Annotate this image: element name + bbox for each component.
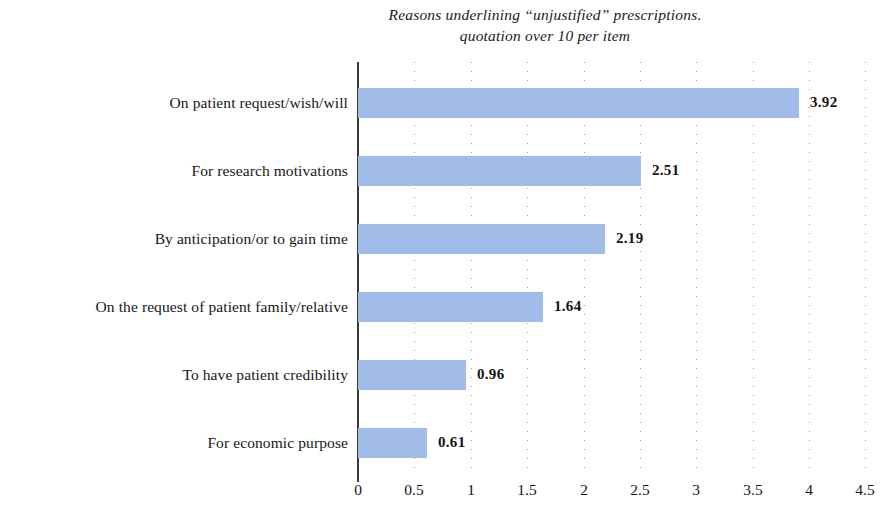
bar-value-label: 3.92 xyxy=(810,94,837,111)
category-label: By anticipation/or to gain time xyxy=(0,224,348,254)
gridline xyxy=(414,62,415,475)
category-label-axis: On patient request/wish/will For researc… xyxy=(0,62,348,475)
gridline xyxy=(471,62,472,475)
x-tick-label: 4.5 xyxy=(855,481,874,499)
bar-row: 2.19 xyxy=(358,224,865,254)
gridline xyxy=(584,62,585,475)
bar-value-label: 2.19 xyxy=(616,230,643,247)
gridline xyxy=(753,62,754,475)
x-tick-label: 0.5 xyxy=(404,481,423,499)
category-label: To have patient credibility xyxy=(0,360,348,390)
bar-value-label: 0.61 xyxy=(438,434,465,451)
bar[interactable] xyxy=(358,88,799,118)
chart-title: Reasons underlining “unjustified” prescr… xyxy=(330,4,760,46)
chart-title-line-2: quotation over 10 per item xyxy=(330,25,760,46)
x-tick-label: 3.5 xyxy=(743,481,762,499)
x-tick-label: 2.5 xyxy=(630,481,649,499)
gridline xyxy=(809,62,810,475)
bar[interactable] xyxy=(358,156,641,186)
x-tick-label: 1.5 xyxy=(517,481,536,499)
category-label: For economic purpose xyxy=(0,428,348,458)
bar[interactable] xyxy=(358,428,427,458)
category-label: On patient request/wish/will xyxy=(0,88,348,118)
gridline xyxy=(640,62,641,475)
bar-chart: Reasons underlining “unjustified” prescr… xyxy=(0,0,891,508)
chart-title-line-1: Reasons underlining “unjustified” prescr… xyxy=(330,4,760,25)
bar-row: 1.64 xyxy=(358,292,865,322)
x-tick-label: 2 xyxy=(580,481,588,499)
x-tick-label: 1 xyxy=(467,481,475,499)
gridline xyxy=(865,62,866,475)
bar-value-label: 0.96 xyxy=(477,366,504,383)
gridline xyxy=(696,62,697,475)
bar-row: 3.92 xyxy=(358,88,865,118)
category-label: For research motivations xyxy=(0,156,348,186)
bar-row: 0.61 xyxy=(358,428,865,458)
category-label: On the request of patient family/relativ… xyxy=(0,292,348,322)
y-axis-line xyxy=(357,62,359,475)
bar-value-label: 2.51 xyxy=(652,162,679,179)
gridline xyxy=(527,62,528,475)
x-tick-label: 0 xyxy=(354,481,362,499)
x-tick-label: 4 xyxy=(805,481,813,499)
x-tick-label: 3 xyxy=(692,481,700,499)
bar[interactable] xyxy=(358,224,605,254)
bar-row: 2.51 xyxy=(358,156,865,186)
bar-row: 0.96 xyxy=(358,360,865,390)
bar[interactable] xyxy=(358,360,466,390)
plot-area: 3.92 2.51 2.19 1.64 0.96 0.61 xyxy=(358,62,865,475)
bar-value-label: 1.64 xyxy=(554,298,581,315)
bar[interactable] xyxy=(358,292,543,322)
